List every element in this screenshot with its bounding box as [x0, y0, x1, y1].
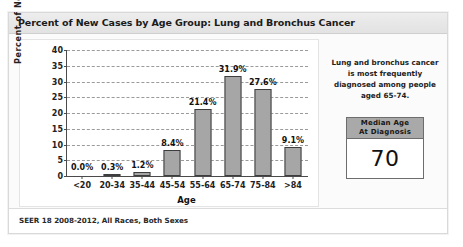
x-axis-tick-mark [232, 176, 233, 179]
y-axis-tick-label: 5 [57, 156, 63, 165]
chart-card: Percent of New Cases by Age Group: Lung … [8, 12, 448, 234]
bar-slot: 9.1%>84 [278, 50, 308, 176]
bar [194, 109, 211, 176]
bar-slot: 8.4%45-54 [157, 50, 187, 176]
x-axis-tick-label: 65-74 [220, 181, 246, 190]
side-panel: Lung and bronchus cancer is most frequen… [331, 39, 439, 207]
bar-value-label: 8.4% [161, 139, 183, 148]
card-header: Percent of New Cases by Age Group: Lung … [9, 13, 447, 34]
bar-slot: 27.6%75-84 [248, 50, 278, 176]
x-axis-label: Age [66, 195, 307, 205]
x-axis-tick-mark [202, 176, 203, 179]
bar-value-label: 31.9% [219, 65, 247, 74]
x-axis-tick-mark [142, 176, 143, 179]
bar [224, 76, 241, 176]
y-axis-tick-label: 10 [52, 140, 63, 149]
card-footer: SEER 18 2008-2012, All Races, Both Sexes [9, 208, 447, 233]
x-axis-tick-mark [292, 176, 293, 179]
bar-slot: 31.9%65-74 [218, 50, 248, 176]
x-axis-tick-mark [112, 176, 113, 179]
source-note: SEER 18 2008-2012, All Races, Both Sexes [19, 216, 188, 225]
x-axis-tick-label: 75-84 [250, 181, 276, 190]
bar-value-label: 27.6% [249, 78, 277, 87]
bar [164, 150, 181, 176]
x-axis-tick-label: 20-34 [99, 181, 125, 190]
x-axis-tick-mark [262, 176, 263, 179]
y-axis-tick-label: 0 [57, 172, 63, 181]
page-title: Percent of New Cases by Age Group: Lung … [18, 17, 355, 28]
x-axis-tick-label: <20 [73, 181, 91, 190]
y-axis-tick-mark [64, 176, 67, 177]
median-age-header-line2: At Diagnosis [359, 128, 411, 137]
y-axis-tick-label: 15 [52, 124, 63, 133]
bar-slot: 0.0%<20 [67, 50, 97, 176]
x-axis-tick-label: >84 [284, 181, 302, 190]
bar-value-label: 0.0% [71, 163, 93, 172]
side-note-text: Lung and bronchus cancer is most frequen… [331, 57, 439, 102]
y-axis-tick-label: 30 [52, 77, 63, 86]
bar-value-label: 1.2% [131, 161, 153, 170]
bar-slot: 0.3%20-34 [97, 50, 127, 176]
median-age-box-header: Median Age At Diagnosis [347, 118, 423, 139]
bar-slot: 21.4%55-64 [188, 50, 218, 176]
chart-panel: Percent of New Cases 0510152025303540 0.… [19, 39, 319, 207]
median-age-value: 70 [347, 139, 423, 178]
y-axis-tick-label: 20 [52, 109, 63, 118]
x-axis-tick-label: 45-54 [160, 181, 186, 190]
y-axis-tick-label: 25 [52, 93, 63, 102]
y-axis-tick-label: 35 [52, 61, 63, 70]
bar [254, 89, 271, 176]
x-axis-tick-mark [172, 176, 173, 179]
x-axis-tick-label: 35-44 [130, 181, 156, 190]
median-age-header-line1: Median Age [361, 119, 409, 128]
x-axis-tick-mark [82, 176, 83, 179]
median-age-box: Median Age At Diagnosis 70 [346, 117, 424, 179]
plot-area: 0510152025303540 0.0%<200.3%20-341.2%35-… [66, 50, 308, 177]
bar-value-label: 0.3% [101, 163, 123, 172]
bar-value-label: 21.4% [189, 98, 217, 107]
bar [284, 147, 301, 176]
y-axis-tick-label: 40 [52, 46, 63, 55]
card-body: Percent of New Cases 0510152025303540 0.… [9, 34, 447, 211]
bar-series: 0.0%<200.3%20-341.2%35-448.4%45-5421.4%5… [67, 50, 308, 176]
bar-value-label: 9.1% [282, 136, 304, 145]
y-axis-label: Percent of New Cases [14, 0, 23, 64]
bar-slot: 1.2%35-44 [127, 50, 157, 176]
x-axis-tick-label: 55-64 [190, 181, 216, 190]
